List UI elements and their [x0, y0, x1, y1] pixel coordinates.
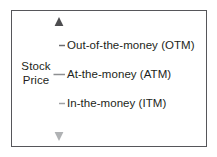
- axis-arrowhead-down: [55, 132, 64, 141]
- axis-caption: Stock Price: [16, 60, 56, 87]
- axis-caption-line-1: Stock: [16, 60, 56, 74]
- diagram-root: Stock Price Out-of-the-money (OTM) At-th…: [0, 0, 217, 157]
- label-out-of-the-money: Out-of-the-money (OTM): [67, 39, 195, 52]
- axis-arrowhead-up: [55, 17, 64, 26]
- axis-caption-line-2: Price: [16, 74, 56, 88]
- label-at-the-money: At-the-money (ATM): [67, 68, 171, 81]
- label-in-the-money: In-the-money (ITM): [67, 97, 166, 110]
